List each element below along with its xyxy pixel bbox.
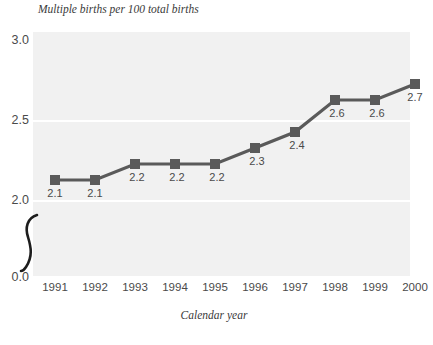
y-axis-title: Multiple births per 100 total births <box>38 3 199 15</box>
point-label: 2.6 <box>362 107 392 119</box>
data-marker[interactable] <box>130 159 140 169</box>
y-tick-label: 2.5 <box>0 113 29 127</box>
data-marker[interactable] <box>330 95 340 105</box>
x-tick-label: 1992 <box>74 281 116 293</box>
data-marker[interactable] <box>50 175 60 185</box>
x-tick-label: 2000 <box>394 281 433 293</box>
x-tick-label: 1999 <box>354 281 396 293</box>
point-label: 2.7 <box>400 91 430 103</box>
point-label: 2.4 <box>282 139 312 151</box>
series-line <box>55 84 415 180</box>
point-label: 2.6 <box>322 107 352 119</box>
y-tick-label: 3.0 <box>0 33 29 47</box>
data-marker[interactable] <box>290 127 300 137</box>
x-tick-label: 1996 <box>234 281 276 293</box>
x-tick-label: 1993 <box>114 281 156 293</box>
x-axis-title: Calendar year <box>0 309 428 321</box>
point-label: 2.2 <box>202 171 232 183</box>
point-label: 2.1 <box>40 187 70 199</box>
point-label: 2.1 <box>80 187 110 199</box>
plot-area: 2.1 2.1 2.2 2.2 2.2 2.3 2.4 2.6 2.6 2.7 <box>33 32 410 276</box>
point-label: 2.3 <box>242 155 272 167</box>
x-tick-label: 1998 <box>314 281 356 293</box>
data-marker[interactable] <box>170 159 180 169</box>
series-line-group <box>33 32 410 276</box>
data-marker[interactable] <box>210 159 220 169</box>
x-tick-label: 1997 <box>274 281 316 293</box>
y-tick-label: 2.0 <box>0 193 29 207</box>
data-marker[interactable] <box>90 175 100 185</box>
point-label: 2.2 <box>162 171 192 183</box>
point-label: 2.2 <box>122 171 152 183</box>
x-tick-label: 1991 <box>34 281 76 293</box>
axis-break-icon <box>18 212 44 274</box>
x-tick-label: 1994 <box>154 281 196 293</box>
data-marker[interactable] <box>250 143 260 153</box>
x-axis-tick-labels: 1991 1992 1993 1994 1995 1996 1997 1998 … <box>33 281 410 297</box>
x-tick-label: 1995 <box>194 281 236 293</box>
data-marker[interactable] <box>410 79 420 89</box>
data-marker[interactable] <box>370 95 380 105</box>
